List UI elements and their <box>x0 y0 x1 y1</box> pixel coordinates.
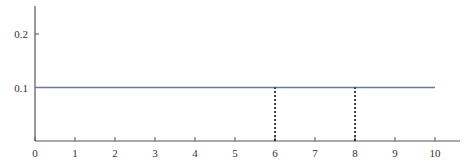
x-ticks: 012345678910 <box>32 137 441 159</box>
x-tick-label: 7 <box>312 147 318 159</box>
x-tick-label: 6 <box>272 147 278 159</box>
x-tick-label: 2 <box>112 147 118 159</box>
y-tick-label: 0.1 <box>14 82 28 94</box>
x-tick-label: 8 <box>352 147 358 159</box>
x-tick-label: 3 <box>152 147 158 159</box>
x-tick-label: 1 <box>72 147 78 159</box>
annotation-layer <box>275 88 355 142</box>
y-tick-label: 0.2 <box>14 28 28 40</box>
x-tick-label: 0 <box>32 147 38 159</box>
x-tick-label: 10 <box>430 147 442 159</box>
uniform-distribution-chart: 012345678910 0.10.2 <box>0 0 473 164</box>
x-tick-label: 4 <box>192 147 198 159</box>
x-tick-label: 5 <box>232 147 238 159</box>
x-tick-label: 9 <box>392 147 398 159</box>
